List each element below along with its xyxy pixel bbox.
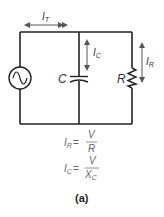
ac-source-icon — [9, 67, 31, 89]
formula-capacitor-current: IC= V XC — [64, 155, 99, 181]
resistor-current-arrow — [139, 42, 145, 83]
svg-text:IC=: IC= — [64, 163, 79, 175]
figure-caption: (a) — [75, 192, 89, 204]
resistor-current-label: IR — [146, 56, 154, 68]
total-current-label: IT — [42, 11, 50, 23]
svg-text:V: V — [88, 129, 96, 140]
svg-text:R: R — [88, 143, 95, 154]
svg-text:IR=: IR= — [64, 137, 79, 149]
resistor-label: R — [117, 72, 126, 86]
formula-resistor-current: IR= V R — [64, 129, 97, 154]
capacitor-current-arrow — [84, 39, 90, 71]
resistor-icon — [128, 68, 136, 88]
circuit-diagram: C R IT IC IR IR= V R IC= V XC (a) — [0, 0, 164, 217]
svg-text:V: V — [89, 155, 97, 166]
capacitor-label: C — [58, 72, 67, 86]
capacitor-current-label: IC — [93, 47, 102, 59]
svg-text:XC: XC — [84, 169, 98, 181]
